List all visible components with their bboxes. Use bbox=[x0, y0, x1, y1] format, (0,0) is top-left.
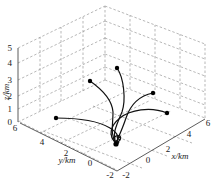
svg-text:3: 3 bbox=[8, 75, 13, 85]
svg-text:6: 6 bbox=[13, 123, 18, 133]
trajectory-1 bbox=[114, 68, 124, 143]
svg-text:-2: -2 bbox=[106, 170, 114, 180]
y-axis-label: y/km bbox=[58, 155, 76, 165]
3d-trajectory-plot: 0 1 2 3 4 5 z/km 6 4 2 0 -2 y/km -2 0 2 … bbox=[0, 0, 214, 180]
start-marker-4 bbox=[54, 116, 58, 120]
svg-text:-2: -2 bbox=[122, 170, 130, 180]
trajectory-3 bbox=[116, 93, 153, 143]
start-marker-1 bbox=[115, 66, 119, 70]
start-marker-3 bbox=[151, 91, 155, 95]
svg-text:4: 4 bbox=[40, 137, 45, 147]
x-axis-line bbox=[117, 119, 205, 171]
grid-lines bbox=[18, 6, 205, 170]
svg-text:0: 0 bbox=[146, 155, 151, 165]
trajectory-2 bbox=[90, 81, 116, 143]
start-marker-5 bbox=[165, 111, 169, 115]
svg-text:4: 4 bbox=[8, 58, 13, 68]
svg-text:2: 2 bbox=[166, 144, 171, 154]
svg-text:0: 0 bbox=[8, 117, 13, 127]
x-axis-label: x/km bbox=[171, 151, 189, 161]
start-marker-2 bbox=[88, 79, 92, 83]
trajectories bbox=[56, 68, 167, 145]
svg-text:1: 1 bbox=[8, 104, 13, 114]
end-marker bbox=[113, 141, 118, 146]
x-ticks: -2 0 2 4 6 bbox=[122, 118, 211, 180]
svg-text:5: 5 bbox=[8, 43, 13, 53]
z-axis-label: z/km bbox=[1, 83, 11, 101]
svg-text:6: 6 bbox=[206, 118, 211, 128]
svg-text:0: 0 bbox=[88, 158, 93, 168]
svg-text:4: 4 bbox=[187, 129, 192, 139]
